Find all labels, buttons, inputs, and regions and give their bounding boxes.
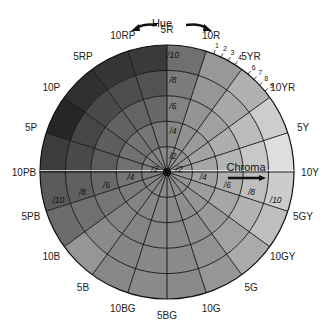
hue-tick xyxy=(221,53,223,57)
hue-label: 10G xyxy=(202,303,221,314)
hue-label: 10B xyxy=(42,251,60,262)
hue-label: 10R xyxy=(202,30,220,41)
chroma-label: /4 xyxy=(199,172,207,182)
munsell-wheel: 10Y5Y10YR5YR10R5R10RP5RP10P5P10PB5PB10B5… xyxy=(0,0,324,330)
hue-label: 5BG xyxy=(157,310,177,321)
chroma-label: /2 xyxy=(168,151,176,161)
hue-axis-label: Hue xyxy=(152,17,172,29)
hue-label: 5PB xyxy=(22,211,41,222)
hue-tick xyxy=(254,77,257,80)
hue-label: 5B xyxy=(77,282,90,293)
hue-tick xyxy=(214,50,215,54)
hue-label: 5Y xyxy=(297,122,310,133)
chroma-label: /8 xyxy=(78,187,86,197)
hue-label: 10GY xyxy=(270,251,296,262)
hue-tick-label: 4 xyxy=(238,54,242,61)
hue-label: 5GY xyxy=(293,211,313,222)
hue-tick-label: 6 xyxy=(252,64,256,71)
chroma-label: /2 xyxy=(175,164,183,174)
hue-label: 5P xyxy=(25,122,38,133)
hue-label: 5YR xyxy=(241,51,260,62)
chroma-label: /4 xyxy=(126,172,134,182)
hue-label: 10BG xyxy=(110,303,136,314)
hue-label: 5G xyxy=(244,282,258,293)
hue-arrowhead-left-icon xyxy=(131,24,140,31)
hue-tick-label: 7 xyxy=(258,69,262,76)
chroma-label: /6 xyxy=(102,180,110,190)
chroma-axis-indicator: Chroma xyxy=(226,161,266,181)
hue-label: 10P xyxy=(42,82,60,93)
chroma-label: /6 xyxy=(223,180,231,190)
hue-label: 10Y xyxy=(301,167,319,178)
chroma-label: /8 xyxy=(168,75,176,85)
hue-tick-label: 8 xyxy=(264,75,268,82)
chroma-label: /2 xyxy=(150,164,158,174)
hue-tick xyxy=(248,71,251,74)
hue-label: 10PB xyxy=(12,167,37,178)
chroma-label: /10 xyxy=(269,195,282,205)
hue-arrowhead-right-icon xyxy=(203,24,212,31)
hue-label: 5RP xyxy=(73,51,93,62)
hue-label: 10YR xyxy=(270,82,295,93)
chroma-label: /8 xyxy=(247,187,255,197)
hue-axis-indicator: Hue xyxy=(131,17,212,31)
chroma-label: /10 xyxy=(166,50,179,60)
center-dot xyxy=(163,168,171,176)
hue-tick-label: 9 xyxy=(270,82,274,89)
chroma-label: /10 xyxy=(51,195,64,205)
hue-tick-label: 2 xyxy=(223,45,227,52)
chroma-axis-label: Chroma xyxy=(226,161,266,173)
hue-tick xyxy=(235,61,237,64)
hue-tick-label: 3 xyxy=(231,49,235,56)
chroma-label: /4 xyxy=(168,126,176,136)
chroma-label: /6 xyxy=(168,101,176,111)
hue-label: 10RP xyxy=(110,30,135,41)
hue-tick xyxy=(260,82,263,85)
hue-tick xyxy=(228,57,230,61)
hue-tick xyxy=(265,88,268,91)
hue-tick-label: 1 xyxy=(215,42,219,49)
